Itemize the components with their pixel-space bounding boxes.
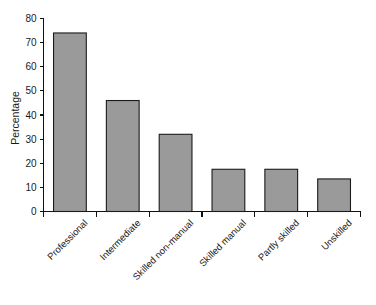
x-axis: [44, 212, 361, 217]
bar: [159, 134, 192, 211]
y-tick-label: 10: [25, 182, 37, 193]
chart-canvas: 01020304050607080 ProfessionalIntermedia…: [0, 0, 376, 305]
y-tick-label: 0: [31, 206, 37, 217]
x-tick-label: Unskilled: [319, 217, 354, 252]
bar: [54, 33, 87, 212]
y-tick-label: 50: [25, 85, 37, 96]
x-tick-label: Partly skilled: [256, 217, 301, 262]
y-tick-label: 20: [25, 158, 37, 169]
y-axis: 01020304050607080: [25, 13, 43, 217]
y-tick-label: 70: [25, 37, 37, 48]
bar-chart-figure: 01020304050607080 ProfessionalIntermedia…: [0, 0, 376, 305]
x-tick-label: Professional: [45, 217, 90, 262]
bar: [265, 169, 298, 211]
bar: [106, 101, 139, 212]
y-tick-label: 80: [25, 13, 37, 24]
y-tick-label: 30: [25, 134, 37, 145]
bar: [318, 179, 351, 212]
x-axis-tick-labels: ProfessionalIntermediateSkilled non-manu…: [45, 217, 354, 282]
bar: [212, 169, 245, 211]
y-tick-label: 60: [25, 61, 37, 72]
x-tick-label: Intermediate: [97, 217, 142, 262]
y-axis-title: Percentage: [9, 91, 21, 145]
bar-series: [54, 33, 351, 212]
x-tick-label: Skilled manual: [197, 217, 248, 268]
y-tick-label: 40: [25, 110, 37, 121]
